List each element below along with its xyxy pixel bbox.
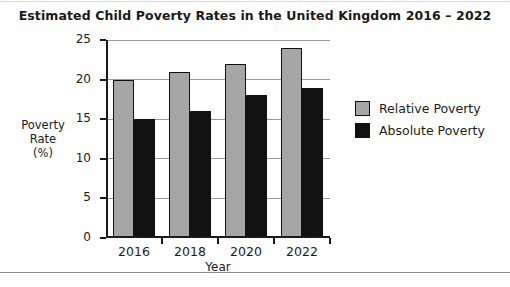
chart-title: Estimated Child Poverty Rates in the Uni… bbox=[0, 8, 510, 23]
y-axis-tick-label: 5 bbox=[83, 190, 91, 204]
legend-swatch-icon bbox=[355, 123, 370, 138]
x-axis-tick bbox=[217, 238, 219, 244]
legend-item-absolute-poverty[interactable]: Absolute Poverty bbox=[355, 119, 485, 141]
y-axis-label-line-1: Poverty bbox=[6, 118, 80, 132]
y-axis-tick-label: 0 bbox=[83, 230, 91, 244]
x-axis-tick bbox=[161, 238, 163, 244]
y-axis-tick-label: 20 bbox=[76, 72, 91, 86]
plot-area: 0510152025 bbox=[106, 40, 330, 238]
chart-figure: Estimated Child Poverty Rates in the Uni… bbox=[0, 0, 510, 287]
legend-item-relative-poverty[interactable]: Relative Poverty bbox=[355, 97, 485, 119]
legend-swatch-icon bbox=[355, 101, 370, 116]
x-axis-tick bbox=[273, 238, 275, 244]
x-axis-category-label-2018: 2018 bbox=[174, 244, 206, 259]
x-axis-category-label-2020: 2020 bbox=[230, 244, 262, 259]
y-axis-label: Poverty Rate (%) bbox=[6, 118, 80, 160]
y-axis-tick-label: 15 bbox=[76, 111, 91, 125]
y-axis-tick-label: 10 bbox=[76, 151, 91, 165]
legend-label: Relative Poverty bbox=[379, 101, 481, 116]
legend-label: Absolute Poverty bbox=[379, 123, 485, 138]
x-axis-category-label-2022: 2022 bbox=[286, 244, 318, 259]
y-axis-label-line-2: Rate bbox=[6, 132, 80, 146]
x-axis-label: Year bbox=[106, 260, 330, 274]
y-axis-tick-label: 25 bbox=[76, 32, 91, 46]
top-divider bbox=[0, 1, 510, 2]
y-axis-label-line-3: (%) bbox=[6, 146, 80, 160]
x-axis-tick bbox=[329, 238, 331, 244]
x-axis-category-label-2016: 2016 bbox=[118, 244, 150, 259]
plot-frame bbox=[106, 40, 330, 238]
legend: Relative PovertyAbsolute Poverty bbox=[355, 97, 485, 141]
